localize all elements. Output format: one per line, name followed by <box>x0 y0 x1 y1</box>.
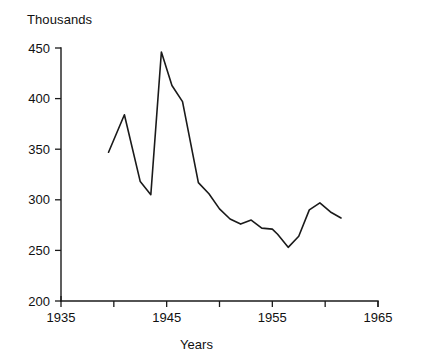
x-tick-label: 1945 <box>152 310 181 325</box>
y-tick-label: 200 <box>28 294 50 309</box>
y-tick-label: 450 <box>28 41 50 56</box>
y-tick-label: 300 <box>28 192 50 207</box>
y-tick-label: 250 <box>28 243 50 258</box>
x-tick-label: 1965 <box>364 310 393 325</box>
y-tick-label: 400 <box>28 91 50 106</box>
line-chart: Thousands 200250300350400450 19351945195… <box>0 0 421 363</box>
x-tick-label: 1955 <box>258 310 287 325</box>
x-axis-title-wrap: Years <box>0 337 421 352</box>
chart-plot-area: 200250300350400450 1935194519551965 <box>0 0 421 363</box>
data-line-value <box>109 52 341 247</box>
x-axis-title: Years <box>180 337 213 352</box>
x-tick-label: 1935 <box>47 310 76 325</box>
x-axis: 1935194519551965 <box>47 296 393 325</box>
y-tick-label: 350 <box>28 142 50 157</box>
data-series-group <box>109 52 341 247</box>
y-axis: 200250300350400450 <box>28 41 61 309</box>
